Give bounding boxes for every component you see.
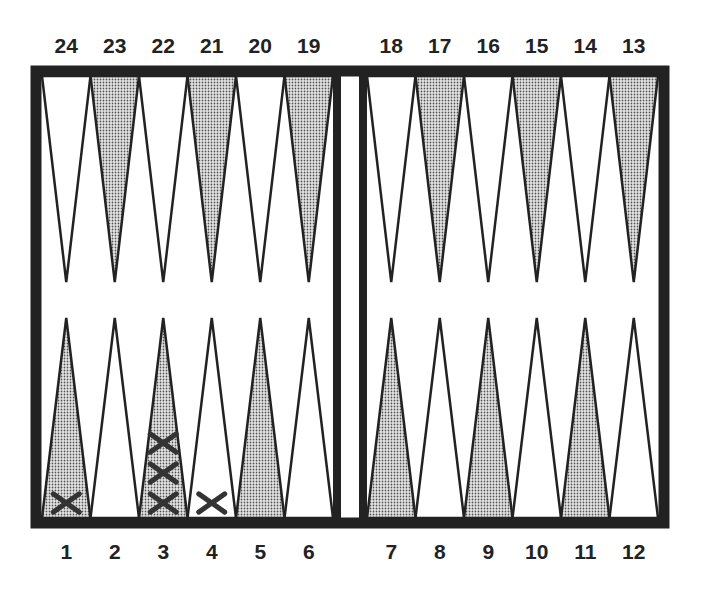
point-21 bbox=[188, 76, 237, 282]
point-label-17: 17 bbox=[420, 34, 460, 58]
point-label-21: 21 bbox=[192, 34, 232, 58]
point-label-2: 2 bbox=[95, 540, 135, 564]
point-17 bbox=[416, 76, 465, 282]
point-label-14: 14 bbox=[565, 34, 605, 58]
point-label-18: 18 bbox=[371, 34, 411, 58]
point-4 bbox=[188, 318, 237, 518]
point-label-13: 13 bbox=[614, 34, 654, 58]
point-label-20: 20 bbox=[240, 34, 280, 58]
point-label-16: 16 bbox=[468, 34, 508, 58]
point-label-6: 6 bbox=[289, 540, 329, 564]
point-16 bbox=[464, 76, 513, 282]
point-18 bbox=[367, 76, 416, 282]
backgammon-board bbox=[0, 0, 701, 597]
point-label-7: 7 bbox=[371, 540, 411, 564]
point-label-19: 19 bbox=[289, 34, 329, 58]
point-label-10: 10 bbox=[517, 540, 557, 564]
point-9 bbox=[464, 318, 513, 518]
bar bbox=[333, 71, 341, 523]
point-14 bbox=[561, 76, 610, 282]
point-label-11: 11 bbox=[565, 540, 605, 564]
point-8 bbox=[416, 318, 465, 518]
point-label-23: 23 bbox=[95, 34, 135, 58]
point-2 bbox=[91, 318, 140, 518]
point-6 bbox=[285, 318, 334, 518]
point-label-24: 24 bbox=[46, 34, 86, 58]
point-11 bbox=[561, 318, 610, 518]
point-label-8: 8 bbox=[420, 540, 460, 564]
point-1 bbox=[42, 318, 91, 518]
point-19 bbox=[285, 76, 334, 282]
point-label-3: 3 bbox=[143, 540, 183, 564]
point-label-9: 9 bbox=[468, 540, 508, 564]
point-23 bbox=[91, 76, 140, 282]
point-label-22: 22 bbox=[143, 34, 183, 58]
point-label-15: 15 bbox=[517, 34, 557, 58]
point-7 bbox=[367, 318, 416, 518]
point-22 bbox=[139, 76, 188, 282]
point-13 bbox=[610, 76, 659, 282]
point-3 bbox=[139, 318, 188, 518]
point-label-1: 1 bbox=[46, 540, 86, 564]
point-10 bbox=[513, 318, 562, 518]
point-5 bbox=[236, 318, 285, 518]
point-label-12: 12 bbox=[614, 540, 654, 564]
point-label-5: 5 bbox=[240, 540, 280, 564]
point-12 bbox=[610, 318, 659, 518]
point-15 bbox=[513, 76, 562, 282]
point-24 bbox=[42, 76, 91, 282]
point-label-4: 4 bbox=[192, 540, 232, 564]
point-20 bbox=[236, 76, 285, 282]
